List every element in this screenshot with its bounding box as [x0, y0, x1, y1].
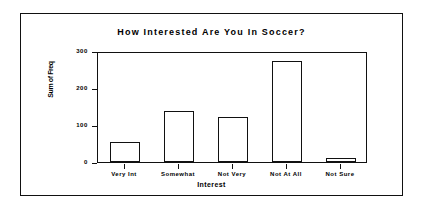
bar[interactable] [164, 111, 194, 162]
bar[interactable] [110, 142, 140, 162]
y-axis-tick-label: 300 [76, 48, 88, 54]
bar[interactable] [326, 158, 356, 162]
x-axis-category-label: Not Very [218, 171, 246, 177]
x-axis-title: Interest [21, 181, 402, 188]
x-axis-category-label: Not Sure [325, 171, 354, 177]
bar-slot [326, 51, 356, 162]
x-axis-tick-mark [286, 164, 287, 169]
bar[interactable] [272, 61, 302, 162]
y-axis-tick-label: 100 [76, 122, 88, 128]
x-axis-tick-mark [178, 164, 179, 169]
x-axis-category-label: Not At All [270, 171, 302, 177]
x-axis-tick-mark [232, 164, 233, 169]
y-axis-tick-label: 200 [76, 85, 88, 91]
plot-area [97, 52, 367, 163]
chart-title: How Interested Are You In Soccer? [21, 27, 402, 37]
bar-slot [218, 51, 248, 162]
bar-slot [272, 51, 302, 162]
x-axis-tick-mark [340, 164, 341, 169]
y-axis-tick-label: 0 [84, 159, 88, 165]
x-axis-category-label: Very Int [111, 171, 137, 177]
y-axis-title: Sum of Freq [47, 45, 54, 115]
bar-slot [164, 51, 194, 162]
bar[interactable] [218, 117, 248, 163]
bar-slot [110, 51, 140, 162]
x-axis-tick-mark [124, 164, 125, 169]
chart-card: How Interested Are You In Soccer? Sum of… [20, 13, 403, 196]
x-axis-category-label: Somewhat [161, 171, 195, 177]
y-axis-tick-mark [92, 163, 97, 164]
